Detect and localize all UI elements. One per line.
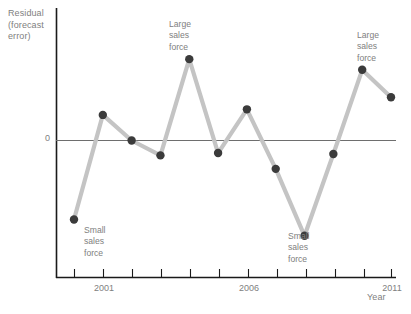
data-point <box>185 55 193 63</box>
y-axis-title: Residual (forecast error) <box>8 8 78 43</box>
data-point <box>358 66 366 74</box>
x-tick-label-2001: 2001 <box>84 283 124 294</box>
annotation-large-sales-force-2: Large sales force <box>357 30 379 64</box>
x-tick-label-2006: 2006 <box>229 283 269 294</box>
data-point <box>243 105 251 113</box>
data-point <box>127 136 135 144</box>
x-axis-title: Year <box>367 292 386 304</box>
data-point-markers <box>70 55 395 240</box>
annotation-small-sales-force-2: Small sales force <box>288 231 310 265</box>
data-point <box>70 215 78 223</box>
data-point <box>387 93 395 101</box>
chart-plot-area <box>0 0 411 314</box>
x-axis-ticks <box>75 269 392 277</box>
data-point <box>329 150 337 158</box>
annotation-small-sales-force-1: Small sales force <box>84 225 106 259</box>
data-point <box>99 111 107 119</box>
data-point <box>272 165 280 173</box>
annotation-large-sales-force-1: Large sales force <box>169 19 191 53</box>
residual-data-line <box>74 59 391 236</box>
data-point <box>156 151 164 159</box>
y-axis-zero-label: 0 <box>38 133 50 145</box>
residual-forecast-error-chart: Residual (forecast error) 0 2001 2006 20… <box>0 0 411 314</box>
data-point <box>214 149 222 157</box>
